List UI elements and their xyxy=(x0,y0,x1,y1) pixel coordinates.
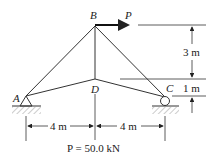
member-bc xyxy=(95,26,165,97)
dim-1m-label: 1 m xyxy=(183,82,200,94)
node-c-label: C xyxy=(166,82,174,94)
load-label: P xyxy=(124,9,132,21)
dim-4m-left-label: 4 m xyxy=(50,120,67,132)
member-dc xyxy=(95,79,165,97)
dim-4m-right-label: 4 m xyxy=(120,120,137,132)
node-b-label: B xyxy=(90,9,97,21)
caption: P = 50.0 kN xyxy=(67,142,120,154)
node-a-label: A xyxy=(12,92,20,104)
roller-support-icon xyxy=(152,97,179,115)
horizontal-dimensions xyxy=(26,94,165,141)
member-ad xyxy=(26,79,95,96)
dim-3m-label: 3 m xyxy=(183,46,200,58)
member-ab xyxy=(26,26,95,96)
truss-diagram: 3 m 1 m 4 m 4 m A B C D P P = 50.0 kN xyxy=(0,0,219,165)
node-d-label: D xyxy=(90,83,99,95)
